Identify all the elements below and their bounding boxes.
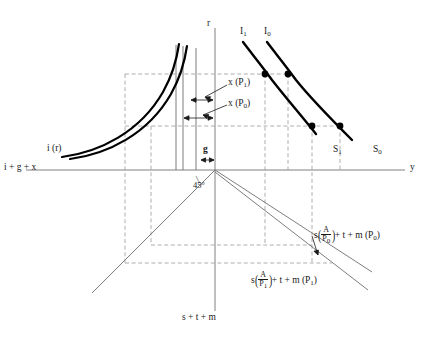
- dot-upper-I0: [285, 71, 292, 78]
- curve-label-I0-sub: 0: [267, 30, 271, 38]
- equation-P1-suffix-close: ): [314, 275, 317, 285]
- dot-upper-I1: [262, 71, 269, 78]
- equation-saving-P0: s(AP0)+ t + m (P0): [314, 226, 380, 245]
- equation-P1-suffix: + t + m (P: [272, 275, 311, 285]
- arrow-x-p0-head-right: [208, 116, 213, 121]
- is-curves: [243, 42, 352, 140]
- curve-label-investment: i (r): [47, 144, 62, 154]
- equation-saving-P1: s(AP1)+ t + m (P1): [251, 271, 317, 290]
- curve-label-S0: S0: [373, 145, 382, 156]
- arrow-g-head-left: [201, 158, 206, 162]
- investment-curves: [62, 44, 187, 159]
- vertical-marker-lines: [176, 45, 196, 170]
- annotation-x-p1-close: ): [247, 77, 250, 87]
- equation-P0-suffix-close: ): [377, 230, 380, 240]
- annotation-x-p0-close: ): [247, 98, 250, 108]
- equation-P1-paren-close: ): [269, 273, 272, 288]
- equation-P1-denominator-sub: 1: [264, 282, 268, 290]
- equation-P0-paren-open: (: [318, 228, 321, 243]
- diagram-canvas: [0, 0, 431, 341]
- arrow-equation-leader-head: [314, 250, 319, 255]
- economics-four-quadrant-diagram: r s + t + m y i + g + x 45° i (r) I1 I0 …: [0, 0, 431, 341]
- arrow-g-head-right: [209, 158, 214, 162]
- equation-P0-fraction: AP0: [321, 226, 331, 245]
- equation-P0-denominator-sub: 0: [327, 237, 331, 245]
- axis-label-i-g-x: i + g + x: [4, 163, 36, 173]
- dot-lower-I0: [337, 123, 344, 130]
- equation-P0-paren-close: ): [332, 228, 335, 243]
- annotation-x-p0-text: x (P: [228, 98, 244, 108]
- axis-label-s-t-m: s + t + m: [182, 313, 216, 323]
- curve-label-S1-sub: 1: [338, 148, 342, 156]
- equation-P0-suffix: + t + m (P: [335, 230, 374, 240]
- annotation-x-p1: x (P1): [228, 78, 250, 89]
- axis-label-y: y: [410, 163, 415, 173]
- investment-curve-outer: [62, 44, 179, 157]
- equation-P0-denominator: P0: [321, 235, 331, 245]
- arrow-x-p1-head-left: [191, 98, 196, 103]
- curve-label-S1: S1: [333, 145, 342, 156]
- curve-label-I0: I0: [264, 27, 271, 38]
- curve-label-I1-sub: 1: [243, 30, 247, 38]
- arrow-x-p0-head-left: [184, 116, 189, 121]
- curve-label-I1: I1: [240, 27, 247, 38]
- equation-P1-fraction: AP1: [258, 271, 268, 290]
- annotation-g: g: [203, 145, 208, 155]
- saving-line-P0: [215, 170, 372, 272]
- investment-curve-inner: [70, 46, 187, 159]
- equation-P1-denominator: P1: [258, 280, 268, 290]
- dot-lower-I1: [309, 123, 316, 130]
- annotation-x-p0: x (P0): [228, 99, 250, 110]
- annotation-x-p1-text: x (P: [228, 77, 244, 87]
- intersection-dots: [262, 71, 344, 130]
- axis-group: [26, 28, 405, 311]
- equation-P1-paren-open: (: [255, 273, 258, 288]
- arrow-x-p1-leader: [205, 85, 227, 97]
- angle-label-45: 45°: [193, 181, 205, 190]
- axis-label-r: r: [207, 19, 210, 29]
- curve-label-S0-sub: 0: [378, 148, 382, 156]
- is-curve-I1: [243, 42, 316, 134]
